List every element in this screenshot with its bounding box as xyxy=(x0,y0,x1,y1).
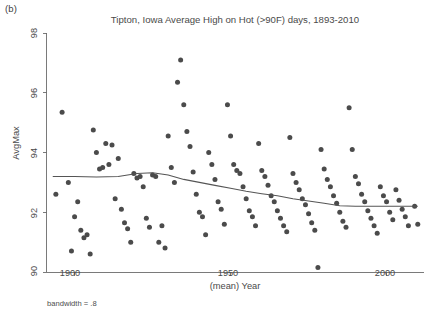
y-tick-label-96: 96 xyxy=(29,81,39,105)
data-point xyxy=(309,220,314,225)
data-point xyxy=(375,231,380,236)
data-point xyxy=(163,246,168,251)
data-point xyxy=(113,196,118,201)
data-point xyxy=(259,168,264,173)
data-point xyxy=(147,225,152,230)
data-point xyxy=(319,147,324,152)
data-point xyxy=(337,210,342,215)
data-point xyxy=(222,222,227,227)
data-point xyxy=(197,210,202,215)
data-point xyxy=(403,214,408,219)
data-point xyxy=(184,129,189,134)
data-point xyxy=(244,196,249,201)
data-point xyxy=(194,192,199,197)
data-point xyxy=(72,214,77,219)
data-point xyxy=(100,165,105,170)
y-tick-label-92: 92 xyxy=(29,201,39,225)
data-point xyxy=(119,207,124,212)
data-point xyxy=(103,141,108,146)
data-point xyxy=(290,171,295,176)
data-point xyxy=(75,199,80,204)
data-point xyxy=(297,187,302,192)
data-point xyxy=(322,166,327,171)
data-point xyxy=(294,180,299,185)
data-point xyxy=(116,156,121,161)
data-point xyxy=(225,102,230,107)
axes-group xyxy=(43,33,425,276)
data-point xyxy=(365,208,370,213)
y-tick-marks xyxy=(43,33,47,272)
data-point xyxy=(306,211,311,216)
y-tick-label-94: 94 xyxy=(29,141,39,165)
data-point xyxy=(156,240,161,245)
data-point xyxy=(393,187,398,192)
y-tick-label-98: 98 xyxy=(29,21,39,45)
data-point xyxy=(269,193,274,198)
data-point xyxy=(91,128,96,133)
data-point xyxy=(125,226,130,231)
data-point xyxy=(284,229,289,234)
x-tick-label-2000: 2000 xyxy=(365,268,405,278)
data-point xyxy=(166,134,171,139)
data-point xyxy=(175,80,180,85)
data-point xyxy=(247,208,252,213)
data-point xyxy=(397,198,402,203)
data-point xyxy=(344,225,349,230)
data-point xyxy=(253,223,258,228)
data-points-group xyxy=(53,57,420,270)
data-point xyxy=(368,216,373,221)
data-point xyxy=(209,162,214,167)
data-point xyxy=(141,184,146,189)
data-point xyxy=(350,147,355,152)
x-axis-title: (mean) Year xyxy=(46,281,424,291)
data-point xyxy=(153,174,158,179)
data-point xyxy=(191,169,196,174)
data-point xyxy=(378,184,383,189)
data-point xyxy=(206,150,211,155)
data-point xyxy=(312,228,317,233)
data-point xyxy=(328,184,333,189)
data-point xyxy=(325,177,330,182)
data-point xyxy=(106,162,111,167)
data-point xyxy=(331,193,336,198)
data-point xyxy=(122,220,127,225)
data-point xyxy=(256,141,261,146)
data-point xyxy=(340,219,345,224)
data-point xyxy=(144,216,149,221)
data-point xyxy=(69,249,74,254)
data-point xyxy=(169,165,174,170)
data-point xyxy=(110,143,115,148)
data-point xyxy=(315,265,320,270)
data-point xyxy=(275,208,280,213)
data-point xyxy=(178,57,183,62)
data-point xyxy=(85,232,90,237)
data-point xyxy=(66,180,71,185)
data-point xyxy=(415,222,420,227)
data-point xyxy=(347,105,352,110)
data-point xyxy=(390,217,395,222)
data-point xyxy=(381,193,386,198)
data-point xyxy=(362,199,367,204)
data-point xyxy=(128,240,133,245)
data-point xyxy=(359,192,364,197)
data-point xyxy=(241,184,246,189)
data-point xyxy=(384,199,389,204)
data-point xyxy=(262,174,267,179)
data-point xyxy=(281,223,286,228)
y-tick-label-90: 90 xyxy=(29,259,39,283)
data-point xyxy=(353,174,358,179)
data-point xyxy=(212,177,217,182)
data-point xyxy=(159,223,164,228)
data-point xyxy=(356,181,361,186)
data-point xyxy=(88,252,93,257)
data-point xyxy=(203,232,208,237)
data-point xyxy=(372,223,377,228)
data-point xyxy=(406,223,411,228)
data-point xyxy=(60,110,65,115)
data-point xyxy=(237,171,242,176)
data-point xyxy=(94,150,99,155)
data-point xyxy=(188,144,193,149)
data-point xyxy=(228,134,233,139)
data-point xyxy=(250,214,255,219)
data-point xyxy=(387,210,392,215)
